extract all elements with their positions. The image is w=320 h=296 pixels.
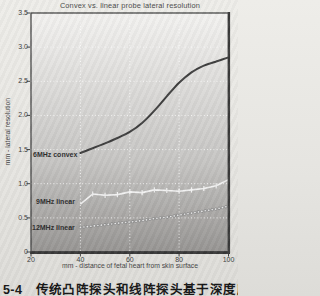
y-tick-label: 0.5 bbox=[2, 214, 28, 221]
y-tick-label: 0 bbox=[2, 248, 28, 255]
x-axis-label: mm - distance of fetal heart from skin s… bbox=[31, 262, 229, 269]
y-tick-label: 3.0 bbox=[2, 43, 28, 50]
plot-area bbox=[0, 0, 238, 296]
y-tick-label: 1.0 bbox=[2, 180, 28, 187]
figure-caption: 5-4 传统凸阵探头和线阵探头基于深度所量 bbox=[3, 279, 238, 296]
y-axis-label: mm - lateral resolution bbox=[4, 84, 11, 180]
y-tick-label: 3.5 bbox=[2, 9, 28, 16]
scanned-figure: Convex vs. linear probe lateral resoluti… bbox=[0, 0, 238, 296]
series-label-6mhz-convex: 6MHz convex bbox=[33, 151, 77, 158]
series-label-12mhz-linear: 12MHz linear bbox=[32, 224, 75, 231]
series-label-9mhz-linear: 9MHz linear bbox=[36, 198, 75, 205]
page: { "page": { "caption": "5-4 传统凸阵探头和线阵探头基… bbox=[0, 0, 238, 296]
